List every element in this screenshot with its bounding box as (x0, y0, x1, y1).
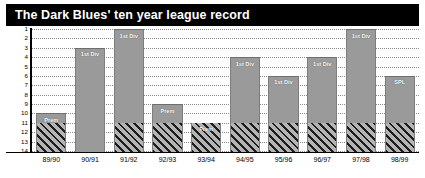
bar-value-label: 1st Div (236, 61, 254, 67)
bar-hatch-segment (153, 123, 181, 152)
y-axis-tick-label: 3 (6, 45, 28, 51)
bar-hatch-segment (115, 123, 143, 152)
chart-bar[interactable]: Prem (191, 123, 221, 152)
x-axis-tick-label: 96/97 (313, 155, 331, 164)
y-axis-tick-label: 2 (6, 35, 28, 41)
x-axis-tick-label: 90/91 (81, 155, 99, 164)
y-axis-tick-label: 13 (6, 139, 28, 145)
x-axis-tick-label: 93/94 (197, 155, 215, 164)
bar-value-label: Prem (199, 126, 213, 132)
bar-value-label: 1st Div (120, 33, 138, 39)
chart-title-bar: The Dark Blues' ten year league record (6, 4, 419, 26)
chart-bar[interactable]: SPL (385, 76, 415, 152)
x-axis-tick-label: 91/92 (120, 155, 138, 164)
y-axis-tick-label: 5 (6, 63, 28, 69)
bar-value-label: 1st Div (81, 51, 99, 57)
x-axis-tick-label: 97/98 (352, 155, 370, 164)
bar-value-label: Prem (44, 117, 58, 123)
x-axis-tick-label: 94/95 (236, 155, 254, 164)
bar-hatch-segment (37, 123, 65, 152)
y-axis-tick-label: 12 (6, 129, 28, 135)
bar-value-label: 1st Div (352, 33, 370, 39)
chart-page: The Dark Blues' ten year league record 1… (0, 0, 425, 178)
bar-hatch-segment (386, 123, 414, 152)
y-axis-tick-label: 9 (6, 101, 28, 107)
x-axis-tick-label: 92/93 (159, 155, 177, 164)
chart-bar[interactable]: 1st Div (114, 29, 144, 152)
bar-value-label: Prem (160, 108, 174, 114)
x-axis-line (6, 152, 419, 153)
x-axis-tick-label: 95/96 (275, 155, 293, 164)
y-axis-tick-label: 10 (6, 110, 28, 116)
bar-hatch-segment (347, 123, 375, 152)
page-title: The Dark Blues' ten year league record (6, 8, 250, 22)
plot-frame: 1234567891011121314 Prem1st Div1st DivPr… (6, 28, 419, 152)
x-axis: 89/9090/9191/9292/9393/9494/9595/9696/97… (32, 155, 419, 171)
y-axis-tick-label: 7 (6, 82, 28, 88)
chart-bar[interactable]: Prem (36, 113, 66, 152)
chart-bar[interactable]: 1st Div (307, 57, 337, 152)
bar-value-label: 1st Div (274, 79, 292, 85)
y-axis-tick-label: 11 (6, 120, 28, 126)
x-axis-tick-label: 98/99 (391, 155, 409, 164)
y-axis: 1234567891011121314 (6, 28, 28, 152)
bar-hatch-segment (231, 123, 259, 152)
y-axis-tick-label: 14 (6, 148, 28, 154)
bar-value-label: 1st Div (313, 61, 331, 67)
y-axis-tick-label: 8 (6, 92, 28, 98)
bars-layer: Prem1st Div1st DivPremPrem1st Div1st Div… (32, 28, 419, 152)
y-axis-tick-label: 1 (6, 26, 28, 32)
plot-area: Prem1st Div1st DivPremPrem1st Div1st Div… (32, 28, 419, 152)
chart-bar[interactable]: 1st Div (75, 48, 105, 152)
bar-value-label: SPL (394, 79, 405, 85)
chart-bar[interactable]: Prem (152, 104, 182, 152)
chart-bar[interactable]: 1st Div (268, 76, 298, 152)
chart-bar[interactable]: 1st Div (346, 29, 376, 152)
chart-bar[interactable]: 1st Div (230, 57, 260, 152)
y-axis-tick-label: 6 (6, 73, 28, 79)
y-axis-tick-label: 4 (6, 54, 28, 60)
bar-hatch-segment (269, 123, 297, 152)
x-axis-tick-label: 89/90 (43, 155, 61, 164)
bar-hatch-segment (308, 123, 336, 152)
